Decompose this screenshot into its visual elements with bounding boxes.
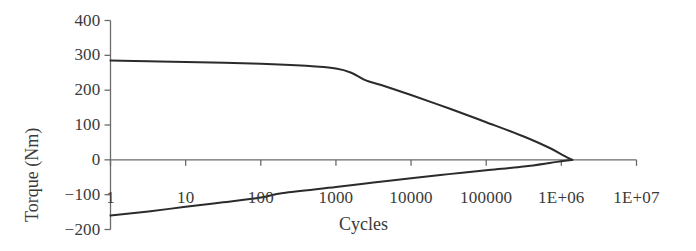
x-tick-label: 1E+07: [613, 188, 659, 208]
x-tick-label: 100000: [460, 188, 512, 208]
chart-figure: Torque (Nm) Cycles 4003002001000−100−200…: [0, 0, 696, 251]
y-tick-label: 200: [74, 80, 100, 100]
y-tick-label: −200: [65, 220, 101, 240]
x-axis-title: Cycles: [339, 214, 388, 235]
y-tick-label: 100: [74, 115, 100, 135]
x-tick-label: 10: [177, 188, 194, 208]
y-axis-title: Torque (Nm): [22, 127, 43, 221]
y-tick-label: 400: [74, 11, 100, 31]
x-tick-label: 10000: [389, 188, 433, 208]
y-tick-label: 300: [74, 45, 100, 65]
x-tick-label: 1000: [319, 188, 354, 208]
x-tick-label: 100: [248, 188, 274, 208]
y-tick-label: −100: [65, 185, 101, 205]
curve-series-0: [111, 61, 573, 160]
x-tick-label: 1: [106, 188, 115, 208]
y-tick-label: 0: [92, 150, 101, 170]
x-tick-label: 1E+06: [538, 188, 584, 208]
